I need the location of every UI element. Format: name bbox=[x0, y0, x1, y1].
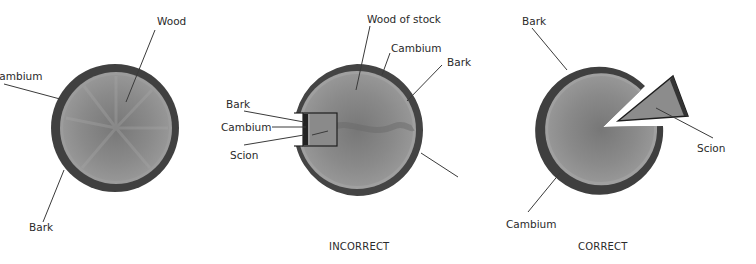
bark-label: Bark bbox=[522, 15, 547, 27]
bark-leader bbox=[532, 28, 567, 70]
scion-bark bbox=[303, 114, 308, 145]
wood-of-stock-label: Wood of stock bbox=[367, 13, 442, 25]
incorrect-caption: INCORRECT bbox=[329, 241, 390, 252]
bark-stock-leader bbox=[407, 65, 442, 101]
bark-stock-label: Bark bbox=[447, 56, 472, 68]
bark-label: Bark bbox=[29, 221, 54, 233]
scion-leader bbox=[244, 135, 304, 145]
scion-label: Scion bbox=[230, 149, 258, 161]
bark-scion-label: Bark bbox=[226, 98, 251, 110]
cambium-scion-label: Cambium bbox=[221, 121, 271, 133]
stock-cross-section: Wood Cambium Bark bbox=[0, 15, 186, 233]
cambium-stock-label: Cambium bbox=[391, 42, 441, 54]
extra-leader bbox=[421, 153, 458, 177]
cambium-leader bbox=[528, 173, 560, 212]
cambium-leader bbox=[4, 84, 60, 99]
cambium-label: Cambium bbox=[0, 70, 42, 82]
correct-graft: Bark Scion Cambium CORRECT bbox=[506, 15, 725, 252]
bark-leader bbox=[43, 170, 64, 222]
scion-label: Scion bbox=[697, 142, 725, 154]
cambium-label: Cambium bbox=[506, 218, 556, 230]
wood-label: Wood bbox=[157, 15, 186, 27]
scion-block bbox=[303, 113, 337, 146]
correct-caption: CORRECT bbox=[578, 241, 628, 252]
incorrect-graft: Wood of stock Cambium Bark Bark Cambium … bbox=[221, 13, 472, 252]
stock-wood bbox=[548, 76, 654, 182]
grafting-diagram: Wood Cambium Bark Wood of stock Cambium … bbox=[0, 0, 756, 264]
